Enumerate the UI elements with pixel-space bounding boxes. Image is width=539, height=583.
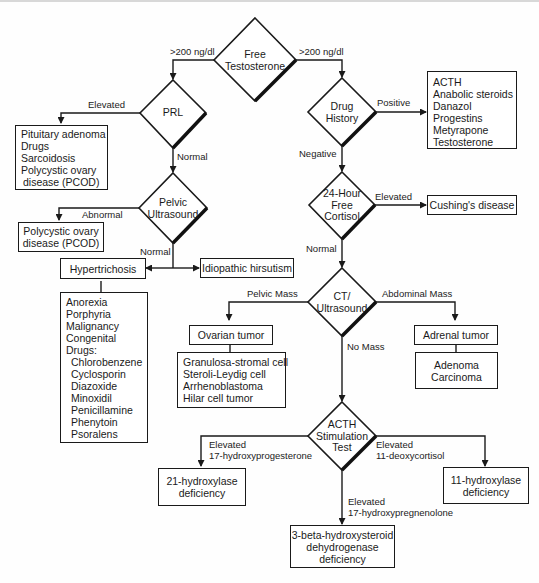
label-line: ACTH bbox=[316, 419, 368, 431]
box-line: Cyclosporin bbox=[66, 368, 142, 380]
edge-label-ft-left: >200 ng/dl bbox=[170, 46, 215, 57]
box-line: deficiency bbox=[463, 486, 510, 498]
label-line: Elevated bbox=[209, 439, 312, 450]
box-line: Congenital bbox=[66, 332, 142, 344]
box-prl-causes: Pituitary adenoma Drugs Sarcoidosis Poly… bbox=[15, 125, 108, 190]
label-line: Pelvic bbox=[148, 197, 199, 209]
box-line: Anabolic steroids bbox=[433, 88, 511, 100]
box-line: Granulosa-stromal cell bbox=[183, 356, 280, 368]
decision-drug-history: Drug History bbox=[326, 101, 359, 124]
edge-label-prl-elevated: Elevated bbox=[88, 99, 125, 110]
edge-label-ft-right: >200 ng/dl bbox=[299, 46, 344, 57]
label-line: CT/ bbox=[317, 291, 368, 303]
box-line: ACTH bbox=[433, 76, 511, 88]
decision-free-cortisol: 24-Hour Free Cortisol bbox=[323, 188, 361, 223]
label-line: Testosterone bbox=[225, 60, 285, 72]
box-line: deficiency bbox=[179, 487, 226, 499]
box-line: Ovarian tumor bbox=[198, 329, 265, 341]
label-line: Ultrasound bbox=[317, 302, 368, 314]
decision-ct-ultrasound: CT/ Ultrasound bbox=[317, 291, 368, 314]
decision-pelvic-ultrasound: Pelvic Ultrasound bbox=[148, 197, 199, 220]
edge-label-drug-negative: Negative bbox=[299, 148, 337, 159]
label-line: History bbox=[326, 112, 359, 124]
box-line: Arrhenoblastoma bbox=[183, 380, 280, 392]
box-line: 3-beta-hydroxysteroid bbox=[292, 529, 394, 541]
edge-label-ct-abdominal: Abdominal Mass bbox=[382, 288, 452, 299]
box-line: Testosterone bbox=[433, 136, 511, 148]
box-line: Adenoma bbox=[434, 359, 479, 371]
label-line: Elevated bbox=[376, 439, 444, 450]
box-hypertrichosis-causes: Anorexia Porphyria Malignancy Congenital… bbox=[60, 292, 148, 443]
box-line: Progestins bbox=[433, 112, 511, 124]
box-line: Penicillamine bbox=[66, 404, 142, 416]
label-line: Free bbox=[225, 49, 285, 61]
edge-label-acth-left: Elevated 17-hydroxyprogesterone bbox=[209, 439, 312, 461]
edge-label-pelvic-abnormal: Abnormal bbox=[82, 209, 123, 220]
label-line: 24-Hour bbox=[323, 188, 361, 200]
label-line: 11-deoxycortisol bbox=[376, 450, 444, 461]
box-line: Idiopathic hirsutism bbox=[202, 262, 292, 274]
box-line: Hypertrichosis bbox=[70, 263, 137, 275]
box-drugs: ACTH Anabolic steroids Danazol Progestin… bbox=[427, 71, 517, 149]
box-line: Chlorobenzene bbox=[66, 356, 142, 368]
box-line: Adrenal tumor bbox=[423, 329, 489, 341]
box-pcod: Polycystic ovary disease (PCOD) bbox=[18, 222, 104, 252]
decision-free-testosterone: Free Testosterone bbox=[225, 49, 285, 72]
label-line: Cortisol bbox=[323, 211, 361, 223]
box-line: Polycystic ovary bbox=[21, 164, 102, 176]
edge-label-acth-down: Elevated 17-hydroxypregnenolone bbox=[348, 496, 453, 518]
box-line: 21-hydroxylase bbox=[166, 475, 237, 487]
box-line: Sarcoidosis bbox=[21, 152, 102, 164]
label-line: Ultrasound bbox=[148, 208, 199, 220]
box-ovarian-types: Granulosa-stromal cell Steroli-Leydig ce… bbox=[177, 352, 286, 408]
box-line: Drugs: bbox=[66, 344, 142, 356]
edge-label-prl-normal: Normal bbox=[177, 151, 208, 162]
edge-label-cortisol-elevated: Elevated bbox=[375, 191, 412, 202]
label-line: 17-hydroxyprogesterone bbox=[209, 450, 312, 461]
box-line: Steroli-Leydig cell bbox=[183, 368, 280, 380]
box-line: Metyrapone bbox=[433, 124, 511, 136]
box-line: Hilar cell tumor bbox=[183, 392, 280, 404]
box-line: Anorexia bbox=[66, 296, 142, 308]
box-line: Phenytoin bbox=[66, 416, 142, 428]
box-line: disease (PCOD) bbox=[23, 237, 99, 249]
label-line: Elevated bbox=[348, 496, 453, 507]
edge-label-acth-right: Elevated 11-deoxycortisol bbox=[376, 439, 444, 461]
edge-label-ct-nomass: No Mass bbox=[347, 341, 384, 352]
box-line: Cushing's disease bbox=[430, 199, 515, 211]
box-line: Drugs bbox=[21, 140, 102, 152]
label-line: Drug bbox=[326, 101, 359, 113]
label-line: PRL bbox=[163, 107, 183, 119]
box-line: Psoralens bbox=[66, 428, 142, 440]
box-line: Malignancy bbox=[66, 320, 142, 332]
box-line: Carcinoma bbox=[431, 371, 482, 383]
edge-label-cortisol-normal: Normal bbox=[306, 243, 337, 254]
box-line: Minoxidil bbox=[66, 392, 142, 404]
box-idiopathic-hirsutism: Idiopathic hirsutism bbox=[200, 258, 294, 278]
box-3-beta-hsd-deficiency: 3-beta-hydroxysteroid dehydrogenase defi… bbox=[290, 525, 395, 568]
box-ovarian-tumor: Ovarian tumor bbox=[189, 325, 273, 345]
label-line: Test bbox=[316, 442, 368, 454]
box-21-hydroxylase-deficiency: 21-hydroxylase deficiency bbox=[158, 468, 246, 506]
box-11-hydroxylase-deficiency: 11-hydroxylase deficiency bbox=[443, 467, 529, 504]
box-line: 11-hydroxylase bbox=[451, 474, 521, 486]
decision-prl: PRL bbox=[163, 107, 183, 119]
box-line: Polycystic ovary bbox=[23, 225, 98, 237]
box-line: Diazoxide bbox=[66, 380, 142, 392]
box-line: dehydrogenase bbox=[306, 541, 378, 553]
edge-label-pelvic-normal: Normal bbox=[140, 246, 171, 257]
box-adrenal-types: Adenoma Carcinoma bbox=[415, 352, 498, 389]
box-line: disease (PCOD) bbox=[21, 176, 102, 188]
box-line: Danazol bbox=[433, 100, 511, 112]
box-adrenal-tumor: Adrenal tumor bbox=[414, 325, 498, 345]
box-line: Pituitary adenoma bbox=[21, 128, 102, 140]
box-line: Porphyria bbox=[66, 308, 142, 320]
box-line: deficiency bbox=[319, 553, 366, 565]
edge-label-drug-positive: Positive bbox=[377, 97, 410, 108]
flowchart-canvas: Free Testosterone PRL Drug History Pelvi… bbox=[0, 0, 539, 583]
box-hypertrichosis: Hypertrichosis bbox=[60, 258, 146, 279]
edge-label-ct-pelvic: Pelvic Mass bbox=[247, 288, 298, 299]
label-line: 17-hydroxypregnenolone bbox=[348, 507, 453, 518]
box-cushings: Cushing's disease bbox=[427, 195, 517, 215]
decision-acth-stimulation: ACTH Stimulation Test bbox=[316, 419, 368, 454]
